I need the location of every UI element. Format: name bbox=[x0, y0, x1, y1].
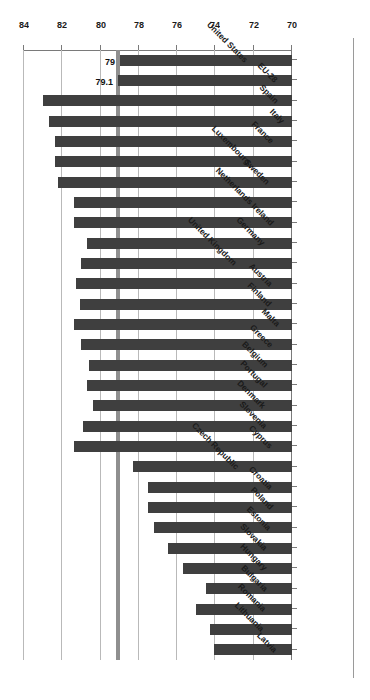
category-tick bbox=[292, 181, 297, 182]
bar-spain bbox=[43, 95, 292, 106]
tick-84 bbox=[23, 45, 24, 50]
category-tick bbox=[292, 141, 297, 142]
category-tick bbox=[292, 446, 297, 447]
bar-hungary bbox=[183, 563, 292, 574]
tick-70 bbox=[291, 45, 292, 50]
category-tick bbox=[292, 547, 297, 548]
category-tick bbox=[292, 222, 297, 223]
category-tick bbox=[292, 344, 297, 345]
category-tick bbox=[292, 405, 297, 406]
category-tick bbox=[292, 364, 297, 365]
category-tick bbox=[292, 588, 297, 589]
category-tick bbox=[292, 100, 297, 101]
category-tick bbox=[292, 120, 297, 121]
chart-page: LatviaLithuaniaRomaniaBulgariaHungarySlo… bbox=[0, 0, 370, 700]
chart-frame-line bbox=[353, 38, 354, 678]
tick-76 bbox=[176, 45, 177, 50]
tick-78 bbox=[138, 45, 139, 50]
category-tick bbox=[292, 425, 297, 426]
category-tick bbox=[292, 283, 297, 284]
category-tick bbox=[292, 59, 297, 60]
tick-label-74: 74 bbox=[202, 20, 228, 30]
category-tick bbox=[292, 649, 297, 650]
category-tick bbox=[292, 629, 297, 630]
bar-latvia bbox=[214, 644, 292, 655]
tick-label-78: 78 bbox=[126, 20, 152, 30]
life-expectancy-bar-chart: LatviaLithuaniaRomaniaBulgariaHungarySlo… bbox=[0, 0, 370, 700]
tick-80 bbox=[100, 45, 101, 50]
bar-slovakia bbox=[168, 543, 292, 554]
tick-label-80: 80 bbox=[88, 20, 114, 30]
category-tick bbox=[292, 507, 297, 508]
tick-label-70: 70 bbox=[279, 20, 305, 30]
plot-area: LatviaLithuaniaRomaniaBulgariaHungarySlo… bbox=[24, 50, 292, 660]
tick-label-72: 72 bbox=[241, 20, 267, 30]
bar-ireland bbox=[74, 217, 292, 228]
category-tick bbox=[292, 324, 297, 325]
bar-czech-republic bbox=[133, 461, 292, 472]
data-label-eu-28: 79.1 bbox=[95, 77, 113, 87]
category-tick bbox=[292, 263, 297, 264]
category-tick bbox=[292, 202, 297, 203]
category-tick bbox=[292, 242, 297, 243]
tick-74 bbox=[214, 45, 215, 50]
category-tick bbox=[292, 385, 297, 386]
data-label-united-states: 79 bbox=[105, 57, 115, 67]
category-tick bbox=[292, 303, 297, 304]
tick-72 bbox=[253, 45, 254, 50]
bar-france bbox=[55, 136, 292, 147]
tick-label-82: 82 bbox=[49, 20, 75, 30]
category-tick bbox=[292, 486, 297, 487]
category-tick bbox=[292, 466, 297, 467]
category-tick bbox=[292, 80, 297, 81]
tick-label-76: 76 bbox=[164, 20, 190, 30]
gridline-84 bbox=[23, 50, 24, 660]
category-tick bbox=[292, 608, 297, 609]
tick-82 bbox=[61, 45, 62, 50]
category-tick bbox=[292, 568, 297, 569]
tick-label-84: 84 bbox=[11, 20, 37, 30]
category-tick bbox=[292, 527, 297, 528]
category-tick bbox=[292, 161, 297, 162]
